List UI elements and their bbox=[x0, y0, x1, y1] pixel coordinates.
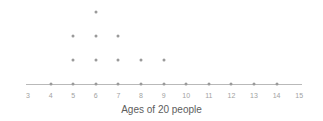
x-tick-label: 6 bbox=[94, 91, 98, 100]
data-point-dot bbox=[162, 59, 165, 62]
data-point-dot bbox=[162, 83, 165, 86]
data-point-dot bbox=[230, 83, 233, 86]
x-tick-label: 4 bbox=[49, 91, 53, 100]
data-point-dot bbox=[253, 83, 256, 86]
x-tick-label: 9 bbox=[162, 91, 166, 100]
data-point-dot bbox=[94, 35, 97, 38]
x-tick-label: 8 bbox=[139, 91, 143, 100]
data-point-dot bbox=[72, 83, 75, 86]
x-tick-label: 14 bbox=[273, 91, 281, 100]
data-point-dot bbox=[185, 83, 188, 86]
x-tick-label: 15 bbox=[295, 91, 303, 100]
data-point-dot bbox=[207, 83, 210, 86]
data-point-dot bbox=[94, 11, 97, 14]
x-tick-label: 5 bbox=[71, 91, 75, 100]
x-tick-label: 7 bbox=[116, 91, 120, 100]
chart-title: Ages of 20 people bbox=[0, 103, 323, 117]
data-point-dot bbox=[117, 83, 120, 86]
data-point-dot bbox=[117, 35, 120, 38]
data-point-dot bbox=[94, 59, 97, 62]
data-point-dot bbox=[72, 35, 75, 38]
x-tick-label: 10 bbox=[182, 91, 190, 100]
data-point-dot bbox=[140, 83, 143, 86]
data-point-dot bbox=[140, 59, 143, 62]
data-point-dot bbox=[72, 59, 75, 62]
plot-area: 3456789101112131415 bbox=[0, 0, 323, 104]
data-point-dot bbox=[94, 83, 97, 86]
x-tick-label: 13 bbox=[250, 91, 258, 100]
x-tick-label: 12 bbox=[227, 91, 235, 100]
x-tick-label: 3 bbox=[26, 91, 30, 100]
data-point-dot bbox=[117, 59, 120, 62]
dot-plot-chart: 3456789101112131415 Ages of 20 people bbox=[0, 0, 323, 121]
x-tick-label: 11 bbox=[205, 91, 212, 100]
data-point-dot bbox=[275, 83, 278, 86]
data-point-dot bbox=[49, 83, 52, 86]
